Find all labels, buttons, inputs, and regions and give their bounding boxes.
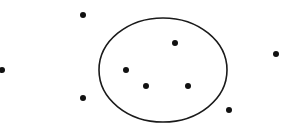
points-inside-group: [123, 40, 191, 89]
point-outside-dot: [80, 12, 86, 18]
enclosing-ellipse: [99, 18, 227, 122]
ellipse-points-diagram: [0, 0, 293, 133]
points-outside-group: [0, 12, 279, 113]
point-outside-dot: [226, 107, 232, 113]
point-outside-dot: [80, 95, 86, 101]
point-inside-dot: [143, 83, 149, 89]
point-outside-dot: [273, 51, 279, 57]
point-inside-dot: [172, 40, 178, 46]
point-inside-dot: [185, 83, 191, 89]
point-outside-dot: [0, 67, 5, 73]
point-inside-dot: [123, 67, 129, 73]
